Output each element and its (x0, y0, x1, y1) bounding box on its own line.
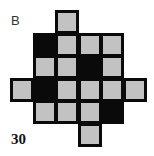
gray-square (55, 78, 79, 102)
black-square (100, 100, 124, 124)
gray-square (33, 55, 57, 79)
figure-number: 30 (11, 131, 26, 148)
gray-square (55, 33, 79, 57)
gray-square (100, 33, 124, 57)
black-square (33, 33, 57, 57)
gray-square (55, 55, 79, 79)
gray-square (100, 78, 124, 102)
gray-square (33, 100, 57, 124)
panel-label: B (11, 13, 20, 28)
gray-square (78, 78, 102, 102)
gray-square (78, 100, 102, 124)
gray-square (55, 10, 79, 34)
gray-square (55, 100, 79, 124)
black-square (33, 78, 57, 102)
gray-square (123, 78, 147, 102)
black-square (78, 55, 102, 79)
gray-square (78, 123, 102, 147)
gray-square (78, 33, 102, 57)
gray-square (100, 55, 124, 79)
gray-square (10, 78, 34, 102)
